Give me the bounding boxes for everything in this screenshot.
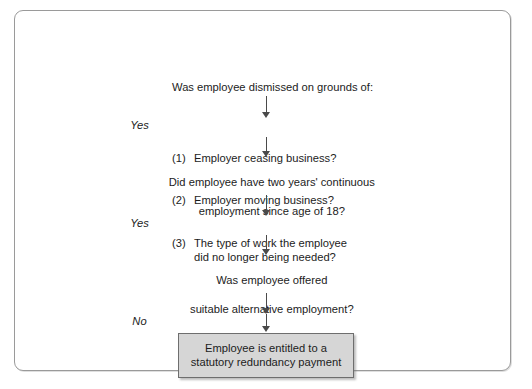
node-continuous-employment-line2: employment since age of 18? (199, 205, 345, 217)
connector-arrowhead (262, 112, 270, 118)
branch-label-yes-2: Yes (0, 217, 510, 229)
connector-arrowhead (262, 151, 270, 157)
branch-label-yes-1: Yes (0, 119, 510, 131)
connector-arrowhead (262, 210, 270, 216)
outcome-box-line1: Employee is entitled to a (179, 341, 353, 355)
connector-arrowhead (262, 249, 270, 255)
outcome-box-line2: statutory redundancy payment (179, 355, 353, 369)
outcome-box-entitlement: Employee is entitled to a statutory redu… (178, 333, 354, 378)
node-dismissal-grounds-heading: Was employee dismissed on grounds of: (172, 80, 398, 94)
node-alternative-employment-line1: Was employee offered (216, 274, 327, 286)
flowchart-frame: Was employee dismissed on grounds of: (1… (14, 10, 511, 371)
connector-arrowhead (262, 326, 270, 332)
list-item-marker: (3) (172, 236, 194, 250)
branch-label-no: No (0, 315, 510, 327)
node-continuous-employment-line1: Did employee have two years' continuous (169, 176, 375, 188)
node-alternative-employment-line2: suitable alternative employment? (190, 303, 354, 315)
